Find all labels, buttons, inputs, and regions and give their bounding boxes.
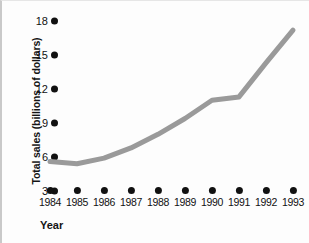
x-axis-title: Year	[40, 219, 63, 231]
chart-figure: Total sales (billions of dollars) 18 15 …	[0, 0, 309, 243]
x-tick-label: 1992	[255, 197, 277, 208]
x-tick-dot-icon	[154, 187, 161, 194]
x-tick-dot-icon	[181, 187, 188, 194]
x-tick-label: 1990	[201, 197, 223, 208]
x-tick: 1986	[93, 187, 115, 208]
x-tick-label: 1984	[39, 197, 61, 208]
x-tick-label: 1985	[66, 197, 88, 208]
x-tick: 1988	[147, 187, 169, 208]
x-tick-dot-icon	[262, 187, 269, 194]
x-tick-label: 1986	[93, 197, 115, 208]
x-tick-dot-icon	[127, 187, 134, 194]
x-tick-dot-icon	[208, 187, 215, 194]
x-tick-dot-icon	[73, 187, 80, 194]
x-tick: 1990	[201, 187, 223, 208]
x-tick: 1993	[282, 187, 304, 208]
x-axis-ticks: 1984 1985 1986 1987 1988 1989 1990 1991	[2, 1, 309, 243]
x-tick-label: 1993	[282, 197, 304, 208]
x-tick: 1991	[228, 187, 250, 208]
x-tick-label: 1987	[120, 197, 142, 208]
x-tick-dot-icon	[235, 187, 242, 194]
x-tick: 1989	[174, 187, 196, 208]
x-tick-label: 1988	[147, 197, 169, 208]
x-tick-label: 1989	[174, 197, 196, 208]
x-tick-dot-icon	[46, 187, 53, 194]
x-tick: 1985	[66, 187, 88, 208]
x-tick-dot-icon	[289, 187, 296, 194]
x-tick: 1987	[120, 187, 142, 208]
x-tick-label: 1991	[228, 197, 250, 208]
x-tick: 1992	[255, 187, 277, 208]
x-tick: 1984	[39, 187, 61, 208]
x-tick-dot-icon	[100, 187, 107, 194]
